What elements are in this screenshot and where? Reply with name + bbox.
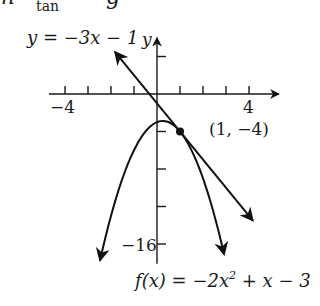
tangent-point-marker (176, 128, 184, 136)
header-subscript: tan (36, 0, 59, 14)
graph-canvas: m tan g y −4 4 −16 (1, −4) y = −3x − 1 f… (0, 0, 320, 306)
x-tick-label-4: 4 (243, 97, 254, 117)
tangent-point-label: (1, −4) (209, 119, 269, 139)
header-trailing: g (106, 0, 120, 9)
x-tick-label-neg4: −4 (50, 97, 75, 117)
header-m: m (0, 0, 15, 9)
function-label-suffix: + x − 3 (236, 270, 311, 291)
header-fragment: m tan g (0, 0, 120, 14)
parabola-curve (100, 121, 224, 261)
y-axis-label: y (141, 29, 152, 49)
function-equation-label: f(x) = −2x2 + x − 3 (133, 269, 311, 291)
y-tick-label-neg16: −16 (121, 235, 157, 255)
tangent-equation-label: y = −3x − 1 (26, 27, 138, 48)
function-label-exponent: 2 (228, 269, 236, 282)
function-label-prefix: f(x) = −2x (133, 270, 229, 291)
y-ticks (157, 57, 166, 245)
